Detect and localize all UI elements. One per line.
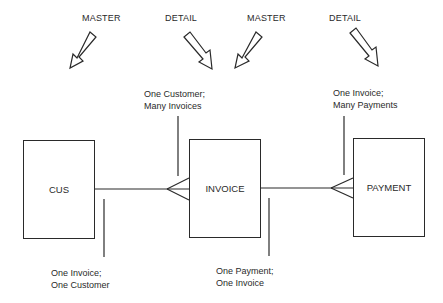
arrow-detail-1-icon (184, 32, 212, 69)
entity-invoice: INVOICE (189, 139, 261, 238)
annotation-cus-invoice-bottom: One Invoice; One Customer (51, 267, 110, 291)
arrow-master-1-icon (70, 32, 96, 68)
arrow-master-2-icon (235, 32, 262, 68)
entity-cus: CUS (23, 140, 95, 239)
annotation-invoice-payment-bottom: One Payment; One Invoice (216, 265, 274, 289)
entity-payment-label: PAYMENT (367, 182, 412, 193)
entity-cus-label: CUS (49, 184, 69, 195)
annotation-cus-invoice-top: One Customer; Many Invoices (144, 88, 205, 112)
entity-payment: PAYMENT (353, 138, 425, 237)
arrow-detail-2-icon (350, 28, 378, 66)
entity-invoice-label: INVOICE (205, 183, 244, 194)
annotation-invoice-payment-top: One Invoice; Many Payments (333, 87, 398, 111)
